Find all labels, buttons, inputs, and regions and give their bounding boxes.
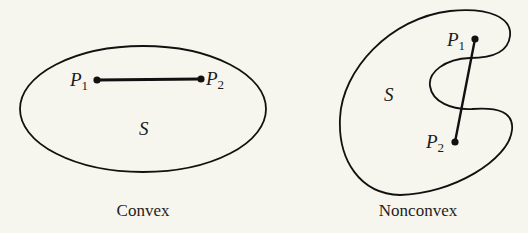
nonconvex-caption: Nonconvex xyxy=(379,201,458,220)
nonconvex-point-p1 xyxy=(471,35,478,42)
convex-p1-label: P1 xyxy=(69,69,88,93)
nonconvex-set-boundary xyxy=(340,10,512,195)
convex-p2-label: P2 xyxy=(205,68,224,92)
nonconvex-panel: P1 P2 S Nonconvex xyxy=(340,10,512,220)
nonconvex-region-label: S xyxy=(384,84,394,105)
convex-segment-p1-p2 xyxy=(97,79,201,80)
nonconvex-p2-label: P2 xyxy=(425,131,444,155)
nonconvex-point-p2 xyxy=(451,138,458,145)
nonconvex-p1-label: P1 xyxy=(446,29,465,53)
convex-point-p2 xyxy=(197,75,204,82)
convex-caption: Convex xyxy=(117,201,170,220)
nonconvex-segment-p1-p2 xyxy=(455,39,475,142)
convex-set-boundary xyxy=(20,46,266,172)
convex-point-p1 xyxy=(93,76,100,83)
figure-canvas: P1 P2 S Convex P1 P2 S Nonconvex xyxy=(0,0,528,233)
convex-panel: P1 P2 S Convex xyxy=(20,46,266,220)
convex-region-label: S xyxy=(139,118,149,139)
convexity-figure: P1 P2 S Convex P1 P2 S Nonconvex xyxy=(0,0,528,233)
